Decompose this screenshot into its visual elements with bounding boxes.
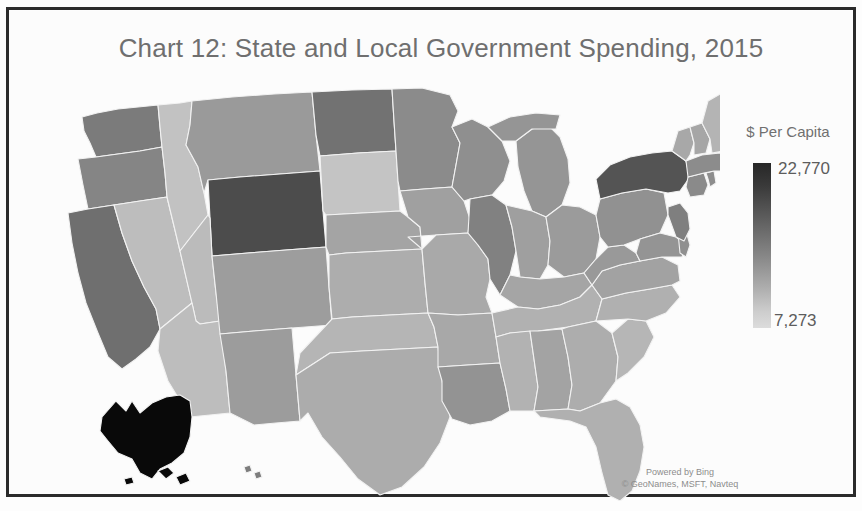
state-SD[interactable]	[320, 151, 400, 215]
choropleth-map	[40, 81, 720, 501]
chart-plate: Chart 12: State and Local Government Spe…	[10, 11, 852, 493]
state-HI-1[interactable]	[244, 465, 252, 473]
map-attribution: Powered by Bing © GeoNames, MSFT, Navteq	[570, 466, 790, 490]
state-NE[interactable]	[326, 211, 422, 255]
frame-border-top	[6, 7, 856, 10]
state-NM[interactable]	[220, 328, 300, 425]
us-map-svg	[40, 81, 720, 501]
state-AK-aleutian-2	[176, 473, 190, 485]
state-MN[interactable]	[392, 88, 460, 191]
state-MI[interactable]	[516, 125, 570, 217]
state-SC[interactable]	[612, 319, 654, 381]
state-ND[interactable]	[312, 89, 396, 156]
state-CO[interactable]	[212, 247, 332, 334]
state-TX[interactable]	[296, 347, 450, 495]
legend: $ Per Capita 22,770 7,273	[710, 123, 860, 343]
attribution-line-sources: © GeoNames, MSFT, Navteq	[570, 478, 790, 490]
state-AR[interactable]	[428, 313, 500, 367]
state-WY[interactable]	[208, 171, 326, 256]
page-title: Chart 12: State and Local Government Spe…	[10, 33, 862, 64]
frame-border-left	[6, 7, 9, 497]
legend-min-label: 7,273	[774, 311, 817, 331]
legend-gradient-bar	[753, 163, 771, 328]
state-GA[interactable]	[562, 321, 618, 411]
state-KS[interactable]	[329, 249, 428, 319]
legend-max-label: 22,770	[778, 159, 830, 179]
legend-title: $ Per Capita	[716, 123, 860, 140]
attribution-line-bing: Powered by Bing	[570, 466, 790, 478]
figure-frame: Chart 12: State and Local Government Spe…	[0, 0, 862, 511]
state-HI-2	[254, 471, 262, 479]
states-group	[68, 88, 720, 501]
state-AK[interactable]	[100, 395, 192, 479]
state-AK-aleutian-3	[124, 477, 134, 485]
